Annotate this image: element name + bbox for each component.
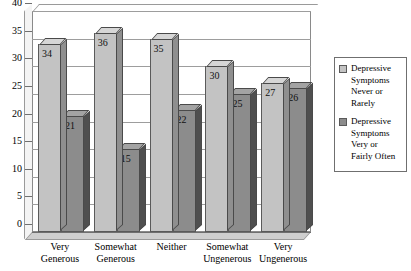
legend-label-line: Very or	[351, 139, 405, 151]
bar-never-or-rarely[interactable]: 35	[150, 39, 173, 232]
y-tick-mark-20	[25, 114, 32, 115]
bar-side-face	[83, 111, 90, 231]
plot-floor-3d	[25, 232, 311, 240]
legend-label-very-or-fairly-often: DepressiveSymptomsVery orFairly Often	[351, 116, 405, 162]
y-tick-mark-0	[25, 224, 32, 225]
bar-side-face	[283, 78, 290, 231]
bar-never-or-rarely[interactable]: 34	[38, 44, 61, 232]
chart-legend: DepressiveSymptomsNever orRarely Depress…	[334, 57, 407, 172]
bar-side-face	[250, 89, 257, 231]
gridline-0	[32, 232, 311, 233]
y-tick-label-30: 30	[0, 53, 22, 63]
y-tick-mark-35	[25, 31, 32, 32]
legend-item-very-or-fairly-often[interactable]: DepressiveSymptomsVery orFairly Often	[339, 116, 405, 162]
legend-label-line: Rarely	[351, 98, 405, 110]
bar-series-layer: 34213615352230252726	[32, 11, 311, 232]
y-tick-label-20: 20	[0, 109, 22, 119]
bar-chart: 0510152025303540 34213615352230252726 Ve…	[0, 0, 411, 271]
bar-group: 3522	[150, 11, 196, 232]
bar-never-or-rarely[interactable]: 27	[261, 83, 284, 232]
bar-never-or-rarely[interactable]: 30	[205, 66, 228, 232]
legend-swatch-never-or-rarely	[339, 65, 347, 73]
legend-label-line: Depressive	[351, 116, 405, 128]
bar-group: 3025	[205, 11, 251, 232]
bar-side-face	[116, 28, 123, 231]
legend-label-never-or-rarely: DepressiveSymptomsNever orRarely	[351, 63, 405, 109]
y-tick-label-35: 35	[0, 26, 22, 36]
bar-side-face	[139, 144, 146, 231]
plot-left-wall-3d	[24, 4, 32, 239]
bar-never-or-rarely[interactable]: 36	[94, 33, 117, 232]
bar-value-label: 35	[154, 44, 164, 54]
legend-label-line: Symptoms	[351, 75, 405, 87]
bar-side-face	[306, 83, 313, 231]
y-tick-mark-40	[25, 3, 32, 4]
bar-group: 3615	[94, 11, 140, 232]
bar-side-face	[195, 105, 202, 231]
legend-swatch-very-or-fairly-often	[339, 118, 347, 126]
y-tick-mark-10	[25, 169, 32, 170]
x-axis-category-labels: VeryGenerousSomewhatGenerousNeitherSomew…	[32, 241, 317, 271]
legend-label-line: Never or	[351, 86, 405, 98]
legend-item-never-or-rarely[interactable]: DepressiveSymptomsNever orRarely	[339, 63, 405, 109]
bar-value-label: 30	[209, 71, 219, 81]
y-tick-mark-15	[25, 141, 32, 142]
x-axis-label-line: Generous	[82, 253, 150, 265]
x-axis-label-line: Very	[249, 241, 317, 253]
y-tick-label-10: 10	[0, 164, 22, 174]
y-tick-mark-5	[25, 196, 32, 197]
y-tick-mark-30	[25, 58, 32, 59]
bar-value-label: 34	[42, 49, 52, 59]
bar-value-label: 36	[98, 38, 108, 48]
x-axis-label: VeryUngenerous	[249, 241, 317, 265]
legend-label-line: Depressive	[351, 63, 405, 75]
y-tick-mark-25	[25, 86, 32, 87]
y-tick-label-25: 25	[0, 81, 22, 91]
y-tick-label-5: 5	[0, 191, 22, 201]
y-tick-label-0: 0	[0, 219, 22, 229]
bar-value-label: 27	[265, 88, 275, 98]
legend-label-line: Symptoms	[351, 128, 405, 140]
bar-side-face	[172, 33, 179, 231]
x-axis-label-line: Ungenerous	[249, 253, 317, 265]
bar-group: 2726	[261, 11, 307, 232]
y-tick-label-15: 15	[0, 136, 22, 146]
bar-side-face	[227, 61, 234, 231]
bar-group: 3421	[38, 11, 84, 232]
legend-label-line: Fairly Often	[351, 151, 405, 163]
y-tick-label-40: 40	[0, 0, 22, 8]
bar-side-face	[60, 39, 67, 231]
